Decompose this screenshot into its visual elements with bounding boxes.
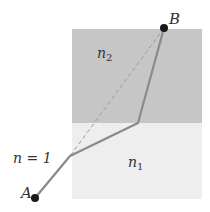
label-a: A	[19, 184, 32, 202]
medium-n2-region	[72, 29, 202, 123]
point-a	[31, 194, 39, 202]
label-b: B	[168, 10, 180, 28]
label-n-equals-1: n = 1	[13, 150, 52, 166]
refraction-diagram: B A n2 n1 n = 1	[0, 0, 210, 212]
point-b	[160, 24, 168, 32]
